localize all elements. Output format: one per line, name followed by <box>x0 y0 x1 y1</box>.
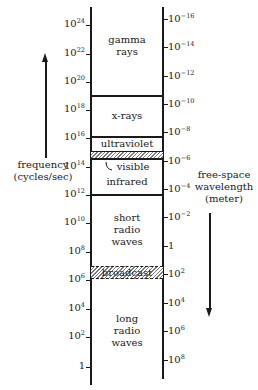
tick-label-base: 10 <box>64 47 77 58</box>
frequency-tick <box>86 195 91 196</box>
wavelength-tick-label: 104 <box>168 298 185 309</box>
tick-label-exponent: 2 <box>181 267 185 275</box>
wavelength-tick-label: 10−8 <box>168 127 190 138</box>
frequency-value: 106 <box>68 273 85 284</box>
tick-label-base: 10 <box>64 103 77 114</box>
wavelength-label-line2: wavelength <box>192 181 256 193</box>
tick-label-base: 10 <box>64 131 77 142</box>
tick-label-exponent: 4 <box>181 296 185 304</box>
broadcast-label: broadcast <box>91 267 163 279</box>
long-radio-waves-label: long radio waves <box>91 313 163 349</box>
tick-label-base: 10 <box>168 13 181 24</box>
wavelength-arrow-shaft <box>209 213 211 309</box>
tick-label-base: 10 <box>168 211 181 222</box>
frequency-value: 108 <box>68 245 85 256</box>
tick-label-exponent: 10 <box>77 215 85 223</box>
tick-label-exponent: −6 <box>181 154 191 162</box>
frequency-tick-label: 1022 <box>45 48 85 59</box>
gamma-label-line1: gamma <box>91 34 163 46</box>
tick-label-base: 10 <box>68 245 81 256</box>
tick-label-base: 1 <box>168 240 174 251</box>
wavelength-value: 10−10 <box>168 98 194 109</box>
wavelength-tick-label: 10−6 <box>168 156 190 167</box>
frequency-tick <box>86 167 91 168</box>
frequency-value: 1 <box>79 360 85 371</box>
frequency-value: 1012 <box>64 188 85 199</box>
tick-label-base: 10 <box>168 297 181 308</box>
tick-label-exponent: 2 <box>81 329 85 337</box>
tick-label-base: 10 <box>64 18 77 29</box>
wavelength-tick-label: 108 <box>168 355 185 366</box>
wavelength-value: 10−6 <box>168 155 190 166</box>
tick-label-base: 10 <box>68 273 81 284</box>
tick-label-exponent: −8 <box>181 125 191 133</box>
frequency-value: 104 <box>68 302 85 313</box>
tick-label-base: 10 <box>168 70 181 81</box>
tick-label-base: 10 <box>168 41 181 52</box>
tick-label-base: 10 <box>168 354 181 365</box>
frequency-value: 1022 <box>64 47 85 58</box>
boundary-visible-infrared <box>91 158 163 160</box>
wavelength-tick-label: 1 <box>168 241 174 251</box>
wavelength-value: 10−8 <box>168 126 190 137</box>
tick-label-exponent: −10 <box>181 97 195 105</box>
x-rays-label: x-rays <box>91 110 163 122</box>
tick-label-exponent: 18 <box>77 102 85 110</box>
wavelength-value: 10−2 <box>168 211 190 222</box>
tick-label-exponent: 24 <box>77 17 85 25</box>
frequency-tick-label: 102 <box>45 331 85 342</box>
wavelength-tick-label: 10−12 <box>168 71 194 82</box>
frequency-tick <box>86 309 91 310</box>
frequency-tick-label: 108 <box>45 246 85 257</box>
frequency-tick-label: 106 <box>45 274 85 285</box>
tick-label-exponent: 12 <box>77 187 85 195</box>
frequency-value: 1018 <box>64 103 85 114</box>
wavelength-value: 106 <box>168 325 185 336</box>
long-radio-line3: waves <box>91 337 163 349</box>
tick-label-exponent: 20 <box>77 74 85 82</box>
tick-label-base: 10 <box>68 330 81 341</box>
tick-label-exponent: 6 <box>81 272 85 280</box>
frequency-value: 1024 <box>64 18 85 29</box>
wavelength-tick-label: 10−2 <box>168 212 190 223</box>
tick-label-exponent: 8 <box>81 244 85 252</box>
tick-label-exponent: 16 <box>77 130 85 138</box>
frequency-label-line1: frequency <box>3 159 83 171</box>
frequency-value: 102 <box>68 330 85 341</box>
tick-label-exponent: 4 <box>81 301 85 309</box>
wavelength-value: 108 <box>168 354 185 365</box>
frequency-value: 1016 <box>64 131 85 142</box>
wavelength-value: 10−16 <box>168 13 194 24</box>
short-radio-line1: short <box>91 212 163 224</box>
wavelength-tick-label: 10−14 <box>168 42 194 53</box>
frequency-tick-label: 1018 <box>45 104 85 115</box>
gamma-label-line2: rays <box>91 46 163 58</box>
tick-label-base: 1 <box>79 360 85 371</box>
wavelength-label-line3: (meter) <box>192 193 256 205</box>
frequency-value: 1010 <box>64 216 85 227</box>
tick-label-exponent: −12 <box>181 69 195 77</box>
tick-label-exponent: 8 <box>181 353 185 361</box>
short-radio-waves-label: short radio waves <box>91 212 163 248</box>
frequency-tick <box>86 25 91 26</box>
frequency-tick-label: 1012 <box>45 189 85 200</box>
frequency-tick-label: 1016 <box>45 132 85 143</box>
long-radio-line2: radio <box>91 325 163 337</box>
frequency-tick-label: 1024 <box>45 19 85 30</box>
frequency-tick-label: 1 <box>45 361 85 371</box>
visible-label: visible <box>97 161 169 173</box>
boundary-infrared-shortradio <box>91 194 163 196</box>
wavelength-value: 10−12 <box>168 70 194 81</box>
tick-label-base: 10 <box>68 302 81 313</box>
tick-label-exponent: 22 <box>77 46 85 54</box>
wavelength-tick-label: 10−10 <box>168 99 194 110</box>
frequency-value: 1020 <box>64 75 85 86</box>
wavelength-value: 102 <box>168 268 185 279</box>
tick-label-exponent: −4 <box>181 182 191 190</box>
frequency-label-line2: (cycles/sec) <box>3 171 83 183</box>
tick-label-base: 10 <box>168 183 181 194</box>
wavelength-value: 10−4 <box>168 183 190 194</box>
frequency-tick <box>86 252 91 253</box>
wavelength-value: 1 <box>168 240 174 251</box>
frequency-tick <box>86 82 91 83</box>
